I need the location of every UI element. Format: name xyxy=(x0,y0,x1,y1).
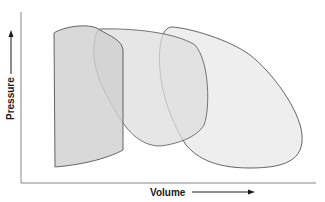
pressure-volume-diagram: Pressure Volume xyxy=(0,0,325,202)
y-axis-label: Pressure xyxy=(5,77,16,120)
x-axis-label: Volume xyxy=(150,187,186,198)
x-arrow-head-icon xyxy=(248,190,255,195)
y-arrow-head-icon xyxy=(9,30,14,37)
narrow-loop xyxy=(54,26,123,167)
diagram-svg: Pressure Volume xyxy=(0,0,325,202)
